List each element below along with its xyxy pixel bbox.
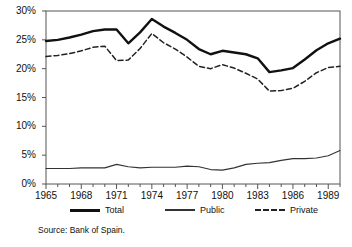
x-tick-label: 1971	[100, 191, 134, 201]
y-tick-label: 15%	[2, 93, 36, 103]
x-tick-label: 1974	[135, 191, 169, 201]
x-tick-label: 1965	[29, 191, 63, 201]
x-tick-label: 1986	[276, 191, 310, 201]
x-tick-label: 1980	[205, 191, 239, 201]
chart-legend: Total Public Private	[70, 203, 315, 217]
legend-item-private[interactable]: Private	[255, 203, 318, 217]
legend-label-public: Public	[200, 205, 225, 215]
y-axis-ticks	[42, 11, 46, 184]
y-tick-label: 5%	[2, 150, 36, 160]
x-tick-label: 1977	[170, 191, 204, 201]
legend-swatch-total-icon	[70, 205, 100, 215]
y-tick-label: 30%	[2, 6, 36, 16]
legend-label-private: Private	[290, 205, 318, 215]
legend-swatch-private-icon	[255, 205, 285, 215]
legend-label-total: Total	[105, 205, 124, 215]
chart-axes	[46, 11, 340, 184]
chart-figure: 0%5%10%15%20%25%30% 19651968197119741977…	[0, 0, 352, 247]
x-tick-label: 1983	[241, 191, 275, 201]
y-tick-label: 25%	[2, 35, 36, 45]
legend-item-total[interactable]: Total	[70, 203, 124, 217]
x-axis-ticks	[46, 184, 340, 189]
legend-item-public[interactable]: Public	[165, 203, 225, 217]
x-tick-label: 1989	[311, 191, 345, 201]
source-note: Source: Bank of Spain.	[38, 225, 125, 235]
x-tick-label: 1968	[64, 191, 98, 201]
y-tick-label: 10%	[2, 121, 36, 131]
plot-frame	[46, 11, 340, 184]
legend-swatch-public-icon	[165, 205, 195, 215]
y-tick-label: 0%	[2, 179, 36, 189]
y-tick-label: 20%	[2, 64, 36, 74]
